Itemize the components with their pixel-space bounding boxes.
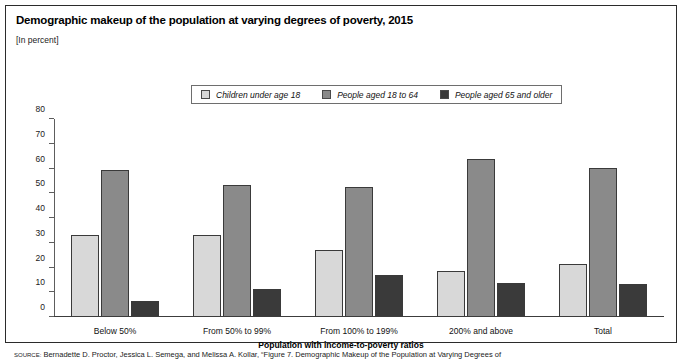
legend-label-adults: People aged 18 to 64: [337, 90, 418, 100]
bar: [589, 168, 617, 317]
page-title: Demographic makeup of the population at …: [16, 14, 413, 26]
x-tick-label: Total: [594, 326, 612, 336]
chart-legend: Children under age 18 People aged 18 to …: [191, 85, 562, 104]
legend-swatch-children: [201, 90, 210, 99]
source-note: SOURCE: Bernadette D. Proctor, Jessica L…: [14, 350, 686, 359]
y-tick-label: 50: [36, 178, 45, 188]
y-tick-label: 70: [36, 129, 45, 139]
bar: [619, 284, 647, 317]
x-tick-label: From 50% to 99%: [203, 326, 271, 336]
y-tick-label: 20: [36, 253, 45, 263]
x-tick-label: 200% and above: [449, 326, 513, 336]
bar-group: Below 50%: [54, 119, 176, 317]
bar: [559, 264, 587, 317]
bar: [193, 235, 221, 317]
units-note: [In percent]: [16, 35, 59, 45]
legend-item: Children under age 18: [201, 90, 300, 100]
bar: [497, 283, 525, 317]
source-prefix: SOURCE:: [14, 352, 41, 358]
legend-item: People aged 65 and older: [440, 90, 552, 100]
y-tick-label: 0: [40, 302, 45, 312]
legend-swatch-adults: [322, 90, 331, 99]
y-tick-label: 40: [36, 203, 45, 213]
bar: [375, 275, 403, 317]
bar: [345, 187, 373, 317]
bar-group: From 50% to 99%: [176, 119, 298, 317]
bar: [101, 170, 129, 317]
legend-item: People aged 18 to 64: [322, 90, 418, 100]
bar-group: Total: [542, 119, 664, 317]
x-tick-label: Below 50%: [94, 326, 137, 336]
x-tick-label: From 100% to 199%: [320, 326, 397, 336]
bar: [253, 289, 281, 317]
bar-group: From 100% to 199%: [298, 119, 420, 317]
figure-panel: Demographic makeup of the population at …: [5, 5, 677, 343]
bar: [467, 159, 495, 317]
legend-swatch-seniors: [440, 90, 449, 99]
x-axis-line: [54, 316, 664, 318]
y-tick-label: 10: [36, 277, 45, 287]
source-text: Bernadette D. Proctor, Jessica L. Semega…: [43, 350, 501, 359]
bar-group: 200% and above: [420, 119, 542, 317]
bar: [315, 250, 343, 317]
legend-label-children: Children under age 18: [216, 90, 300, 100]
y-tick-label: 80: [36, 104, 45, 114]
x-axis-title: Population with income-to-poverty ratios: [6, 340, 676, 350]
bar-groups: Below 50%From 50% to 99%From 100% to 199…: [54, 119, 664, 317]
legend-label-seniors: People aged 65 and older: [455, 90, 552, 100]
plot-area: 01020304050607080 Below 50%From 50% to 9…: [54, 119, 664, 317]
bar: [71, 235, 99, 317]
bar: [437, 271, 465, 317]
y-tick-label: 30: [36, 228, 45, 238]
bar: [223, 185, 251, 317]
y-tick-label: 60: [36, 154, 45, 164]
